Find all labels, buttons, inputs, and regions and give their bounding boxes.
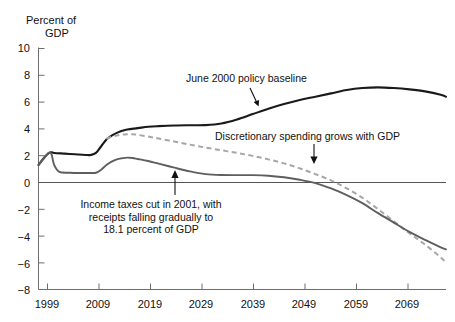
y-axis-label-line1: Percent of [26, 14, 76, 27]
chart-figure: Percent of GDP 10 8 6 4 2 0 −2 −4 −6 −8 … [0, 0, 455, 322]
x-axis-ticks [48, 284, 409, 290]
y-tick-label-2: 2 [4, 151, 30, 162]
y-axis-label-line2: GDP [45, 27, 69, 40]
y-tick-label-4: 4 [4, 124, 30, 135]
x-tick-label-1999: 1999 [22, 299, 72, 310]
annotation-taxcut-line1: Income taxes cut in 2001, with [56, 198, 246, 211]
y-tick-label-neg2: −2 [4, 205, 30, 216]
x-tick-label-2069: 2069 [382, 299, 432, 310]
annotation-discretionary-spending: Discretionary spending grows with GDP [215, 130, 400, 143]
y-tick-label-6: 6 [4, 97, 30, 108]
x-tick-label-2029: 2029 [176, 299, 226, 310]
y-axis-ticks [39, 49, 45, 290]
annotation-taxcut-line3: 18.1 percent of GDP [56, 223, 246, 236]
x-tick-label-2039: 2039 [228, 299, 278, 310]
x-tick-label-2009: 2009 [73, 299, 123, 310]
annotation-june-2000-policy-baseline: June 2000 policy baseline [186, 72, 307, 85]
x-tick-label-2019: 2019 [125, 299, 175, 310]
y-tick-label-neg8: −8 [4, 285, 30, 296]
annotation-taxcut-line2: receipts falling gradually to [56, 211, 246, 224]
annotation-arrow-discretionary [310, 144, 317, 164]
y-tick-label-10: 10 [4, 43, 30, 54]
x-tick-label-2049: 2049 [279, 299, 329, 310]
x-tick-label-2059: 2059 [331, 299, 381, 310]
annotation-income-taxes-cut: Income taxes cut in 2001, with receipts … [56, 198, 246, 236]
plot-area [0, 0, 455, 322]
annotation-arrow-baseline [250, 88, 259, 107]
y-tick-label-neg4: −4 [4, 232, 30, 243]
y-tick-label-0: 0 [4, 178, 30, 189]
y-tick-label-neg6: −6 [4, 259, 30, 270]
y-tick-label-8: 8 [4, 70, 30, 81]
